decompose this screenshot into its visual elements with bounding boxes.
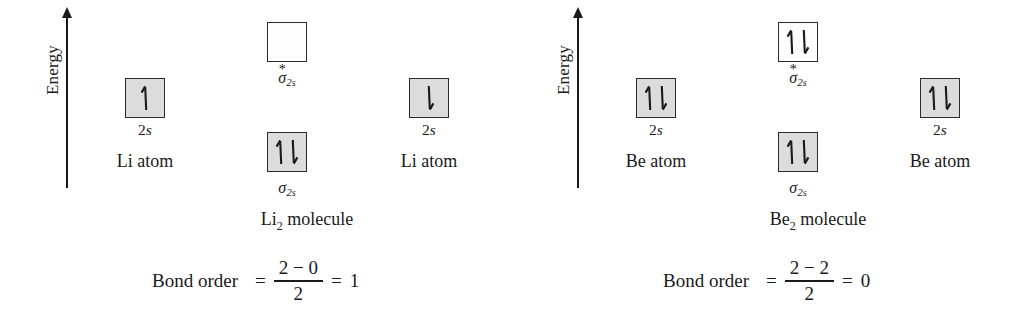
- molecule-formula-base: Li: [261, 209, 277, 229]
- orbital-box-be2-antibonding-sigma-star-2s: [778, 22, 818, 62]
- orbital-box-li2-right-atom-2s: [409, 78, 449, 118]
- fraction-bar: [274, 280, 323, 282]
- spin-down-arrow-icon: [424, 85, 435, 111]
- energy-axis-label-be2: Energy: [554, 45, 574, 95]
- electron-arrows-li2-right-atom: [410, 79, 448, 117]
- spin-down-arrow-icon: [799, 139, 810, 165]
- orbital-label-num: 2: [422, 121, 430, 138]
- orbital-box-li2-left-atom-2s: [125, 78, 165, 118]
- fraction-denominator: 2: [289, 284, 309, 304]
- bond-order-equals-2: =: [842, 270, 853, 292]
- mo-diagram-be2: Energy 2s Be atom: [511, 0, 1022, 313]
- spin-down-arrow-icon: [657, 85, 668, 111]
- orbital-box-be2-left-atom-2s: [636, 78, 676, 118]
- electron-arrows-be2-bonding: [779, 133, 817, 171]
- orbital-box-be2-bonding-sigma-2s: [778, 132, 818, 172]
- bond-order-equals: =: [766, 270, 777, 292]
- molecule-word: molecule: [283, 209, 353, 229]
- spin-up-arrow-icon: [786, 139, 797, 165]
- fraction-bar: [785, 280, 834, 282]
- mo-diagram-li2: Energy 2s Li atom σ*2s: [0, 0, 511, 313]
- sigma-subscript: 2s: [797, 76, 806, 88]
- energy-axis-label-li2: Energy: [43, 45, 63, 95]
- electron-arrows-be2-left-atom: [637, 79, 675, 117]
- orbital-label-num: 2: [649, 121, 657, 138]
- antibonding-star: *: [279, 63, 286, 77]
- bond-order-fraction: 2 − 0 2: [274, 258, 323, 304]
- orbital-label-be2-left-atom: 2s: [616, 122, 696, 138]
- antibonding-star: *: [790, 63, 797, 77]
- bond-order-text: Bond order: [663, 270, 749, 292]
- spin-up-arrow-icon: [644, 85, 655, 111]
- spin-down-arrow-icon: [288, 139, 299, 165]
- molecule-formula-base: Be: [770, 209, 790, 229]
- orbital-label-letter: s: [941, 121, 947, 138]
- sigma-subscript: 2s: [286, 76, 295, 88]
- atom-label-li2-right: Li atom: [369, 152, 489, 170]
- orbital-label-letter: s: [430, 121, 436, 138]
- orbital-label-li2-right-atom: 2s: [389, 122, 469, 138]
- atom-label-li2-left: Li atom: [85, 152, 205, 170]
- orbital-label-num: 2: [933, 121, 941, 138]
- sigma-sub-letter: s: [292, 77, 296, 88]
- electron-arrows-be2-right-atom: [921, 79, 959, 117]
- electron-arrows-li2-bonding: [268, 133, 306, 171]
- bond-order-result: 1: [350, 270, 360, 292]
- bond-order-equation-be2: Bond order = 2 − 2 2 = 0: [663, 258, 870, 304]
- spin-down-arrow-icon: [799, 29, 810, 55]
- spin-up-arrow-icon: [786, 29, 797, 55]
- molecule-label-be2: Be2 molecule: [698, 210, 938, 232]
- fraction-numerator: 2 − 0: [274, 258, 323, 278]
- sigma-symbol: σ*: [278, 70, 286, 86]
- electron-arrows-li2-antibonding: [268, 23, 306, 61]
- orbital-box-be2-right-atom-2s: [920, 78, 960, 118]
- bond-order-result: 0: [861, 270, 871, 292]
- atom-label-be2-left: Be atom: [591, 152, 721, 170]
- sigma-subscript: 2s: [797, 186, 806, 198]
- fraction-denominator: 2: [800, 284, 820, 304]
- molecule-label-li2: Li2 molecule: [187, 210, 427, 232]
- mo-label-li2-antibonding: σ*2s: [247, 70, 327, 88]
- orbital-label-letter: s: [657, 121, 663, 138]
- orbital-label-letter: s: [146, 121, 152, 138]
- mo-label-be2-antibonding: σ*2s: [758, 70, 838, 88]
- electron-arrows-be2-antibonding: [779, 23, 817, 61]
- orbital-label-be2-right-atom: 2s: [900, 122, 980, 138]
- sigma-subscript: 2s: [286, 186, 295, 198]
- molecule-word: molecule: [796, 209, 866, 229]
- orbital-box-li2-antibonding-sigma-star-2s: [267, 22, 307, 62]
- bond-order-fraction: 2 − 2 2: [785, 258, 834, 304]
- mo-label-li2-bonding: σ2s: [247, 180, 327, 198]
- energy-axis-arrow-be2: [577, 16, 579, 188]
- bond-order-text: Bond order: [152, 270, 238, 292]
- bond-order-equals-2: =: [331, 270, 342, 292]
- mo-label-be2-bonding: σ2s: [758, 180, 838, 198]
- spin-up-arrow-icon: [275, 139, 286, 165]
- spin-up-arrow-icon: [140, 85, 151, 111]
- sigma-sub-letter: s: [803, 77, 807, 88]
- sigma-sub-letter: s: [803, 187, 807, 198]
- energy-axis-arrow-li2: [66, 16, 68, 188]
- orbital-box-li2-bonding-sigma-2s: [267, 132, 307, 172]
- atom-label-be2-right: Be atom: [875, 152, 1005, 170]
- fraction-numerator: 2 − 2: [785, 258, 834, 278]
- spin-up-arrow-icon: [928, 85, 939, 111]
- electron-arrows-li2-left-atom: [126, 79, 164, 117]
- orbital-label-li2-left-atom: 2s: [105, 122, 185, 138]
- spin-down-arrow-icon: [941, 85, 952, 111]
- bond-order-equation-li2: Bond order = 2 − 0 2 = 1: [152, 258, 359, 304]
- bond-order-equals: =: [255, 270, 266, 292]
- orbital-label-num: 2: [138, 121, 146, 138]
- sigma-sub-letter: s: [292, 187, 296, 198]
- sigma-symbol: σ*: [789, 70, 797, 86]
